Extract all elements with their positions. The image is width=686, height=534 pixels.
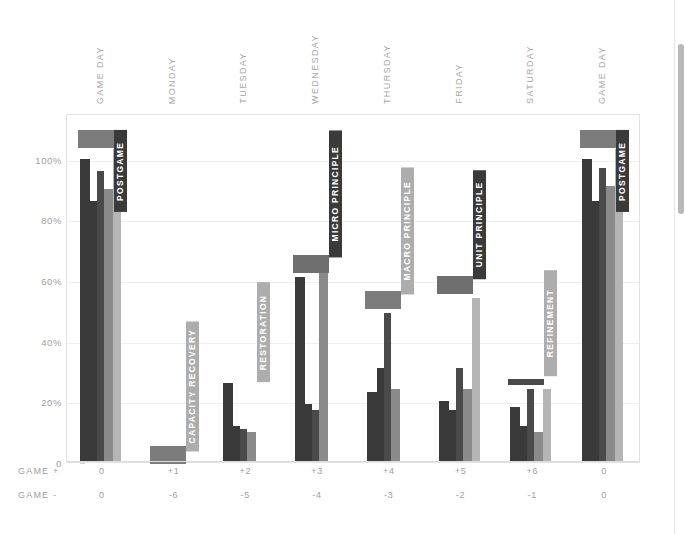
zero-baseline bbox=[67, 461, 639, 462]
bar-0-s0 bbox=[582, 159, 592, 462]
y-axis: 020%40%60%80%100% bbox=[18, 114, 62, 464]
bar-+2-s1 bbox=[233, 426, 240, 462]
phase-label-0: POSTGAME bbox=[114, 130, 127, 212]
bar-+5-s3 bbox=[463, 389, 472, 462]
phase-band-4 bbox=[365, 291, 401, 309]
bar-+3-s0 bbox=[295, 277, 305, 462]
bar-0-s3 bbox=[606, 186, 615, 462]
phase-band-7 bbox=[580, 130, 616, 148]
bar-0-s2 bbox=[599, 168, 606, 462]
y-tick-label-5: 100% bbox=[22, 154, 62, 165]
axis-cell-1-0: 0 bbox=[99, 490, 105, 500]
axis-cell-0-0: 0 bbox=[99, 466, 105, 476]
bar-+2-s0 bbox=[223, 383, 233, 462]
day-label-6: SATURDAY bbox=[526, 45, 535, 104]
axis-row-1: GAME -0-6-5-4-3-2-10 bbox=[0, 490, 660, 512]
axis-cell-1-7: 0 bbox=[601, 490, 607, 500]
axis-cell-0-3: +3 bbox=[311, 466, 323, 476]
bar-+6-s1 bbox=[520, 426, 527, 462]
gridline-100 bbox=[67, 161, 639, 162]
axis-cell-0-5: +5 bbox=[455, 466, 467, 476]
bar-+6-s4 bbox=[543, 389, 551, 462]
scrollbar-track[interactable] bbox=[674, 0, 686, 534]
bar-+4-s1 bbox=[377, 368, 384, 462]
bar-0-s0 bbox=[80, 159, 90, 462]
phase-band-3 bbox=[293, 255, 329, 273]
phase-label-1: CAPACITY RECOVERY bbox=[186, 321, 199, 451]
scrollbar-thumb[interactable] bbox=[678, 44, 684, 214]
phase-band-6 bbox=[508, 379, 544, 385]
axis-cell-1-1: -6 bbox=[169, 490, 179, 500]
y-tick-label-1: 20% bbox=[22, 397, 62, 408]
day-label-4: THURSDAY bbox=[383, 44, 392, 104]
bar-+3-s1 bbox=[305, 404, 312, 462]
bar-0-s1 bbox=[592, 201, 599, 462]
axis-cell-1-2: -5 bbox=[241, 490, 251, 500]
bar-0-s2 bbox=[97, 171, 104, 462]
y-tick-label-2: 40% bbox=[22, 336, 62, 347]
bar-+4-s2 bbox=[384, 313, 391, 462]
y-tick-mark-0 bbox=[80, 463, 85, 464]
bar-+5-s2 bbox=[456, 368, 463, 462]
phase-label-2: RESTORATION bbox=[257, 282, 270, 382]
bar-+3-s3 bbox=[319, 271, 328, 462]
bar-+2-s2 bbox=[240, 429, 247, 462]
phase-label-6: REFINEMENT bbox=[544, 270, 557, 376]
phase-band-5 bbox=[437, 276, 473, 294]
chart-page: GAME DAYMONDAYTUESDAYWEDNESDAYTHURSDAYFR… bbox=[0, 0, 686, 534]
phase-band-0 bbox=[78, 130, 114, 148]
axis-row-0: GAME +0+1+2+3+4+5+60 bbox=[0, 466, 660, 488]
y-tick-label-3: 60% bbox=[22, 275, 62, 286]
bar-+6-s2 bbox=[527, 389, 534, 462]
day-label-7: GAME DAY bbox=[598, 46, 607, 104]
bar-+6-s3 bbox=[534, 432, 543, 462]
bar-+5-s1 bbox=[449, 410, 456, 462]
phase-label-3: MICRO PRINCIPLE bbox=[329, 130, 342, 257]
gridline-80 bbox=[67, 221, 639, 222]
day-label-3: WEDNESDAY bbox=[311, 34, 320, 104]
phase-label-5: UNIT PRINCIPLE bbox=[473, 170, 486, 279]
axis-cell-1-5: -2 bbox=[456, 490, 466, 500]
bar-0-s3 bbox=[104, 189, 113, 462]
day-label-5: FRIDAY bbox=[455, 63, 464, 104]
day-label-0: GAME DAY bbox=[96, 46, 105, 104]
axis-cell-0-7: 0 bbox=[601, 466, 607, 476]
bar-+3-s2 bbox=[312, 410, 319, 462]
bar-+5-s4 bbox=[472, 298, 480, 462]
axis-cell-1-3: -4 bbox=[312, 490, 322, 500]
axis-row-title-1: GAME - bbox=[18, 490, 78, 500]
bar-+2-s3 bbox=[247, 432, 256, 462]
bar-+4-s0 bbox=[367, 392, 377, 462]
y-tick-label-4: 80% bbox=[22, 215, 62, 226]
axis-cell-1-4: -3 bbox=[384, 490, 394, 500]
game-offset-rows: GAME +0+1+2+3+4+5+60GAME -0-6-5-4-3-2-10 bbox=[0, 466, 660, 522]
axis-cell-0-1: +1 bbox=[168, 466, 180, 476]
bar-0-s1 bbox=[90, 201, 97, 462]
axis-cell-1-6: -1 bbox=[528, 490, 538, 500]
bar-+4-s3 bbox=[391, 389, 400, 462]
plot-area: POSTGAMECAPACITY RECOVERYRESTORATIONMICR… bbox=[66, 114, 640, 463]
axis-cell-0-4: +4 bbox=[383, 466, 395, 476]
day-label-1: MONDAY bbox=[168, 57, 177, 104]
gridline-20 bbox=[67, 403, 639, 404]
bar-+5-s0 bbox=[439, 401, 449, 462]
axis-cell-0-2: +2 bbox=[239, 466, 251, 476]
day-label-row: GAME DAYMONDAYTUESDAYWEDNESDAYTHURSDAYFR… bbox=[0, 0, 660, 110]
axis-row-title-0: GAME + bbox=[18, 466, 78, 476]
axis-cell-0-6: +6 bbox=[526, 466, 538, 476]
bar-+6-s0 bbox=[510, 407, 520, 462]
phase-label-7: POSTGAME bbox=[616, 130, 629, 212]
phase-label-4: MACRO PRINCIPLE bbox=[401, 167, 414, 294]
day-label-2: TUESDAY bbox=[239, 52, 248, 104]
